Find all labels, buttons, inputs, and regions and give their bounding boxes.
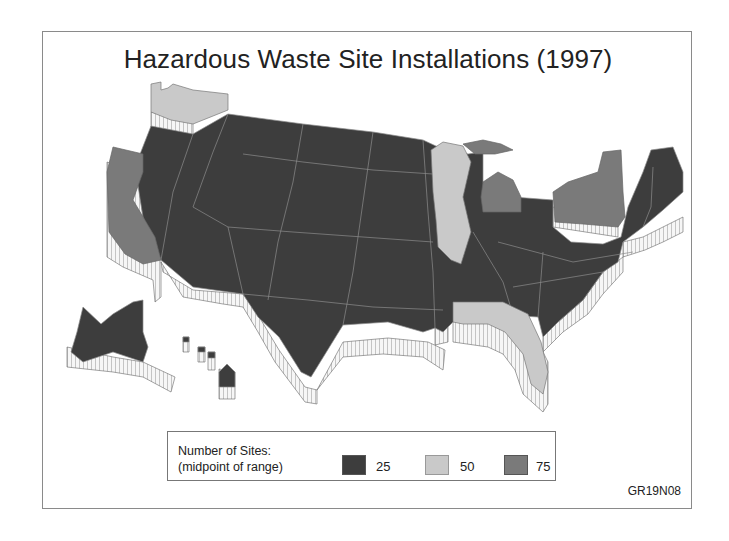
hawaii-big-island xyxy=(219,364,235,387)
new-york xyxy=(553,150,625,227)
alaska xyxy=(71,300,148,362)
legend-swatch-25 xyxy=(342,455,366,475)
legend-title: Number of Sites: (midpoint of range) xyxy=(178,443,283,475)
legend-label-25: 25 xyxy=(376,459,390,474)
legend-label-50: 50 xyxy=(460,459,474,474)
figure-code: GR19N08 xyxy=(628,484,681,498)
us-map xyxy=(43,32,693,432)
michigan xyxy=(481,172,521,212)
us-mainland xyxy=(135,114,683,377)
michigan-up xyxy=(463,140,513,154)
legend-label-75: 75 xyxy=(536,459,550,474)
chart-frame: Hazardous Waste Site Installations (1997… xyxy=(42,31,692,509)
legend-title-line2: (midpoint of range) xyxy=(178,459,283,475)
legend: Number of Sites: (midpoint of range) 25 … xyxy=(167,431,556,481)
legend-swatch-75 xyxy=(504,455,528,475)
legend-title-line1: Number of Sites: xyxy=(178,443,283,459)
legend-swatch-50 xyxy=(425,455,449,475)
